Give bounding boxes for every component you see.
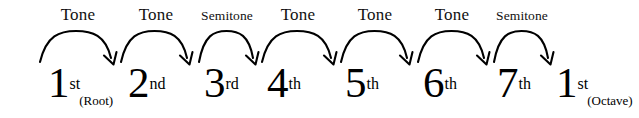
arrow-head-icon [400,52,413,65]
scale-degree: 5th [345,61,379,104]
arrow-head-icon [246,52,259,65]
degree-number: 6 [423,59,445,106]
scale-degree: 3rd [204,61,239,104]
arrow-head-icon [541,52,554,65]
scale-degree: 7th [497,61,531,104]
interval-label-semitone: Semitone [496,9,548,23]
scale-degree: 1st(Root) [48,61,114,104]
degree-ordinal-suffix: rd [226,75,239,92]
degree-ordinal-suffix: th [445,75,457,92]
arrow-arc [341,31,407,62]
degree-number: 2 [128,59,150,106]
arrow-arc [494,31,548,62]
interval-label-tone: Tone [139,6,174,23]
degree-note: (Octave) [587,93,632,108]
scale-degree: 1st(Octave) [556,61,634,104]
scale-degree: 4th [267,61,301,104]
arrow-arc [199,31,253,62]
arrow-head-icon [477,52,490,65]
arrow-head-icon [180,52,193,65]
degree-number: 3 [204,59,226,106]
degree-number: 7 [497,59,519,106]
scale-degree: 2nd [128,61,166,104]
scale-interval-diagram: ToneToneSemitoneToneToneToneSemitone 1st… [0,0,639,118]
degree-number: 5 [345,59,367,106]
arrow-arc [262,31,331,62]
degree-ordinal-suffix: th [367,75,379,92]
scale-degree: 6th [423,61,457,104]
degree-ordinal-suffix: nd [150,75,166,92]
arrow-arc [418,31,484,62]
degree-ordinal-suffix: st [70,75,81,92]
degree-number: 1 [556,59,578,106]
degree-ordinal-suffix: st [578,75,589,92]
arrow-head-icon [324,52,337,65]
interval-label-tone: Tone [61,6,96,23]
degree-ordinal-suffix: th [289,75,301,92]
degree-note: (Root) [79,93,113,108]
interval-label-semitone: Semitone [201,9,253,23]
interval-label-tone: Tone [435,6,470,23]
interval-label-tone: Tone [358,6,393,23]
interval-label-tone: Tone [281,6,316,23]
degree-number: 4 [267,59,289,106]
arrow-arc [40,31,111,62]
degree-ordinal-suffix: th [519,75,531,92]
arrow-arc [121,31,187,62]
degree-number: 1 [48,59,70,106]
